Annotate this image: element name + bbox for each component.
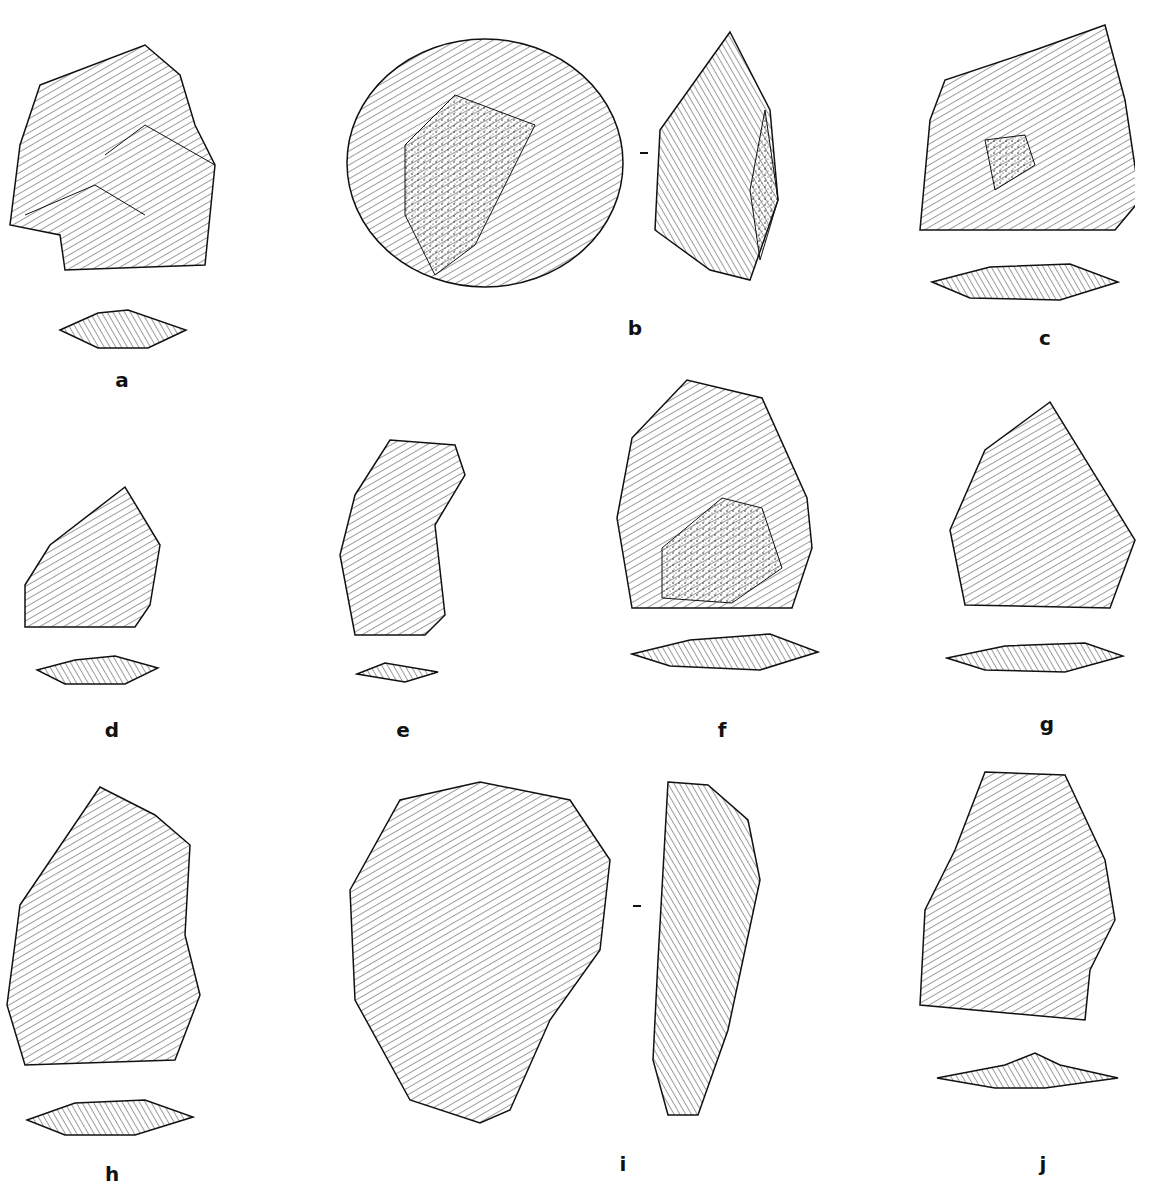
artifact-label-a: a	[115, 368, 129, 392]
artifact-b-profile	[650, 30, 780, 285]
artifact-label-d: d	[105, 718, 119, 742]
artifact-j-face	[915, 770, 1130, 1025]
artifact-j-section	[935, 1050, 1120, 1090]
artifact-label-b: b	[628, 316, 642, 340]
artifact-b-face	[345, 35, 625, 290]
artifact-label-e: e	[396, 718, 410, 742]
artifact-e-face	[335, 435, 470, 640]
artifact-label-g: g	[1040, 712, 1054, 736]
artifact-label-h: h	[105, 1162, 119, 1186]
artifact-f-face	[612, 378, 817, 613]
artifact-g-section	[945, 640, 1125, 675]
artifact-i-profile	[648, 780, 763, 1125]
artifact-d-face	[20, 485, 165, 630]
artifact-label-c: c	[1039, 326, 1051, 350]
view-separator-i	[633, 905, 641, 907]
artifact-i-face	[340, 780, 615, 1125]
artifact-c-face	[915, 20, 1135, 235]
artifact-g-face	[945, 400, 1140, 610]
view-separator-b	[640, 152, 648, 154]
artifact-label-j: j	[1040, 1152, 1047, 1176]
artifact-label-f: f	[718, 718, 727, 742]
artifact-a-face	[5, 35, 220, 285]
artifact-a-section	[58, 308, 188, 353]
artifact-c-section	[930, 262, 1120, 302]
artifact-f-section	[630, 632, 820, 672]
artifact-d-section	[35, 652, 160, 687]
artifact-e-section	[355, 660, 440, 685]
artifact-h-face	[5, 785, 205, 1085]
artifact-h-section	[25, 1095, 195, 1140]
artifact-label-i: i	[620, 1152, 627, 1176]
